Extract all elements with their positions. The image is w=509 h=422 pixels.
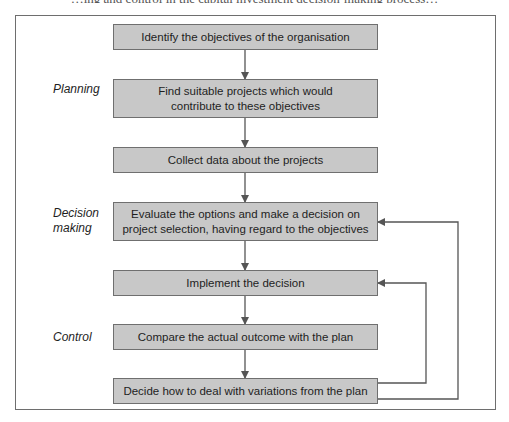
feedback-loop-implement — [377, 283, 426, 383]
step-text: Find suitable projects which would contr… — [144, 84, 347, 114]
step-text: Identify the objectives of the organisat… — [141, 30, 349, 45]
step-text: Decide how to deal with variations from … — [123, 384, 367, 399]
stage-label-planning: Planning — [53, 82, 100, 97]
step-identify-objectives: Identify the objectives of the organisat… — [113, 24, 378, 50]
step-text: Collect data about the projects — [168, 153, 323, 168]
step-find-projects: Find suitable projects which would contr… — [113, 79, 378, 118]
step-compare-outcome: Compare the actual outcome with the plan — [113, 324, 378, 350]
step-text: Compare the actual outcome with the plan — [138, 330, 353, 345]
step-implement-decision: Implement the decision — [113, 270, 378, 296]
feedback-loop-evaluate — [377, 222, 458, 399]
stage-label-control: Control — [53, 330, 92, 345]
step-collect-data: Collect data about the projects — [113, 147, 378, 173]
step-text: Implement the decision — [186, 276, 304, 291]
stage-label-decision-making: Decision making — [53, 206, 99, 236]
step-deal-with-variations: Decide how to deal with variations from … — [113, 378, 378, 404]
step-evaluate-options: Evaluate the options and make a decision… — [113, 202, 378, 241]
step-text: Evaluate the options and make a decision… — [118, 207, 373, 237]
